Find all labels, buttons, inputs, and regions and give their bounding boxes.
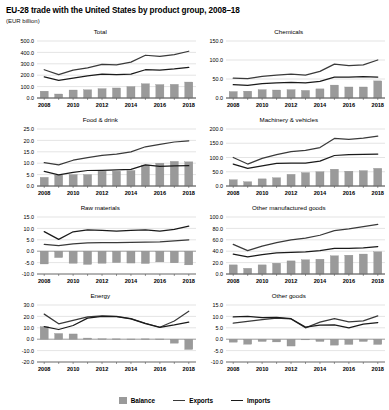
balance-bar xyxy=(286,339,294,346)
chart-panel: Other goods-10.0-5.00.05.010.015.0200820… xyxy=(195,291,384,379)
x-tick-label: 2012 xyxy=(96,102,108,108)
x-tick-label: 2018 xyxy=(183,278,195,284)
y-tick-label: 80.0 xyxy=(212,226,223,232)
balance-bar xyxy=(258,265,266,274)
x-tick-label: 2012 xyxy=(284,190,296,196)
chart-panel: Raw materials-10.0-5.00.05.010.015.02008… xyxy=(6,203,195,291)
exports-line xyxy=(44,141,189,165)
balance-bar xyxy=(170,161,178,186)
y-tick-label: 400.0 xyxy=(21,50,35,56)
y-tick-label: 0.0 xyxy=(27,336,35,342)
x-tick-label: 2010 xyxy=(67,278,79,284)
y-tick-label: 100.0 xyxy=(209,155,223,161)
plot-area: -10.0-5.00.05.010.015.020082010201220142… xyxy=(195,301,384,375)
exports-line xyxy=(44,240,189,246)
balance-bar xyxy=(185,251,193,265)
panel-title: Other goods xyxy=(195,292,384,299)
balance-bar xyxy=(344,171,352,186)
balance-bar xyxy=(112,88,120,98)
y-tick-label: 200.0 xyxy=(209,126,223,132)
legend-item-imports: Imports xyxy=(231,397,270,404)
y-tick-label: 40.0 xyxy=(212,248,223,254)
x-tick-label: 2018 xyxy=(371,278,383,284)
balance-bar xyxy=(344,255,352,274)
y-tick-label: 0.0 xyxy=(215,183,223,189)
plot-area: 0.020.040.060.080.0100.02008201020122014… xyxy=(195,213,384,287)
x-tick-label: 2012 xyxy=(96,190,108,196)
y-tick-label: 15.0 xyxy=(212,302,223,308)
y-tick-label: 0.0 xyxy=(27,183,35,189)
x-tick-label: 2008 xyxy=(38,278,50,284)
y-tick-label: 5.0 xyxy=(215,325,223,331)
balance-bar xyxy=(98,339,106,340)
balance-bar xyxy=(55,334,63,340)
balance-bar xyxy=(373,81,381,98)
x-tick-label: 2014 xyxy=(313,366,326,372)
x-tick-label: 2008 xyxy=(38,366,50,372)
balance-bar xyxy=(112,171,120,186)
balance-bar xyxy=(112,251,120,262)
x-tick-label: 2018 xyxy=(371,102,383,108)
chart-panel: Total0.0100.0200.0300.0400.0500.02008201… xyxy=(6,27,195,115)
y-tick-label: 5.0 xyxy=(27,237,35,243)
x-tick-label: 2010 xyxy=(255,278,267,284)
balance-bar xyxy=(69,251,77,263)
y-tick-label: 0.0 xyxy=(27,248,35,254)
balance-bar xyxy=(185,82,193,98)
plot-area: 0.050.0100.0150.0200.0200820102012201420… xyxy=(195,125,384,199)
plot-area: 0.05.010.015.020.025.0200820102012201420… xyxy=(6,125,195,199)
balance-bar xyxy=(229,339,237,342)
x-tick-label: 2016 xyxy=(154,102,166,108)
balance-bar xyxy=(373,339,381,344)
y-tick-label: 5.0 xyxy=(27,172,35,178)
balance-bar xyxy=(229,92,237,98)
balance-bar xyxy=(69,334,77,339)
x-tick-label: 2012 xyxy=(96,278,108,284)
balance-bar xyxy=(127,87,135,98)
legend-label-balance: Balance xyxy=(131,397,156,404)
y-tick-label: 15.0 xyxy=(24,149,35,155)
y-tick-label: 20.0 xyxy=(24,138,35,144)
y-tick-label: 20.0 xyxy=(212,260,223,266)
balance-bar xyxy=(127,251,135,263)
legend-item-balance: Balance xyxy=(119,397,156,404)
balance-bar xyxy=(272,263,280,274)
y-tick-label: -5.0 xyxy=(25,260,34,266)
balance-bar xyxy=(286,174,294,186)
x-tick-label: 2018 xyxy=(183,102,195,108)
panel-title: Total xyxy=(6,28,195,35)
balance-bar xyxy=(40,177,48,186)
balance-bar xyxy=(330,85,338,98)
balance-bar xyxy=(272,339,280,342)
x-tick-label: 2010 xyxy=(255,102,267,108)
imports-line-icon xyxy=(231,400,243,401)
y-tick-label: 10.0 xyxy=(24,226,35,232)
panel-title: Energy xyxy=(6,292,195,299)
plot-area: 0.050.0100.0150.020082010201220142016201… xyxy=(195,37,384,111)
chart-panel: Food & drink0.05.010.015.020.025.0200820… xyxy=(6,115,195,203)
x-tick-label: 2016 xyxy=(154,366,166,372)
y-tick-label: -10.0 xyxy=(22,348,34,354)
x-tick-label: 2008 xyxy=(227,190,239,196)
balance-bar xyxy=(98,89,106,98)
panel-title: Food & drink xyxy=(6,116,195,123)
x-tick-label: 2018 xyxy=(371,190,383,196)
y-tick-label: 20.0 xyxy=(24,314,35,320)
x-tick-label: 2014 xyxy=(313,278,326,284)
balance-bar xyxy=(141,84,149,98)
balance-bar xyxy=(315,89,323,98)
y-tick-label: -10.0 xyxy=(22,271,34,277)
chart-grid: Total0.0100.0200.0300.0400.0500.02008201… xyxy=(6,27,383,379)
x-tick-label: 2016 xyxy=(342,278,354,284)
y-tick-label: 25.0 xyxy=(24,126,35,132)
y-tick-label: -10.0 xyxy=(210,359,222,365)
x-tick-label: 2014 xyxy=(125,366,138,372)
balance-bar xyxy=(141,165,149,186)
x-tick-label: 2012 xyxy=(96,366,108,372)
imports-line xyxy=(44,67,189,80)
balance-bar xyxy=(40,327,48,340)
balance-bar xyxy=(301,90,309,98)
balance-bar xyxy=(330,256,338,274)
balance-bar xyxy=(272,178,280,186)
balance-bar xyxy=(156,251,164,262)
